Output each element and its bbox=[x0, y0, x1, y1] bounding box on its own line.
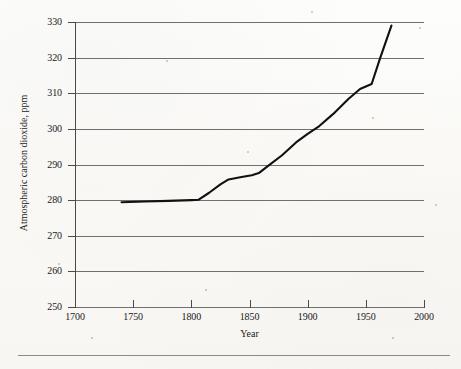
data-line-layer bbox=[0, 0, 461, 369]
scan-speck bbox=[166, 60, 168, 62]
scan-speck bbox=[58, 263, 60, 265]
scan-speck bbox=[435, 204, 437, 206]
figure-page: 250260270280290300310320330 170017501800… bbox=[0, 0, 461, 369]
scan-speck bbox=[392, 337, 394, 339]
scan-speck bbox=[205, 289, 207, 291]
scan-speck bbox=[91, 337, 93, 339]
page-footer-rule bbox=[18, 355, 450, 356]
co2-data-line bbox=[122, 26, 392, 203]
scan-speck bbox=[311, 11, 313, 13]
scan-speck bbox=[247, 151, 249, 153]
co2-line-chart: 250260270280290300310320330 170017501800… bbox=[0, 0, 461, 369]
scan-speck bbox=[372, 117, 374, 119]
scan-speck bbox=[419, 27, 421, 29]
